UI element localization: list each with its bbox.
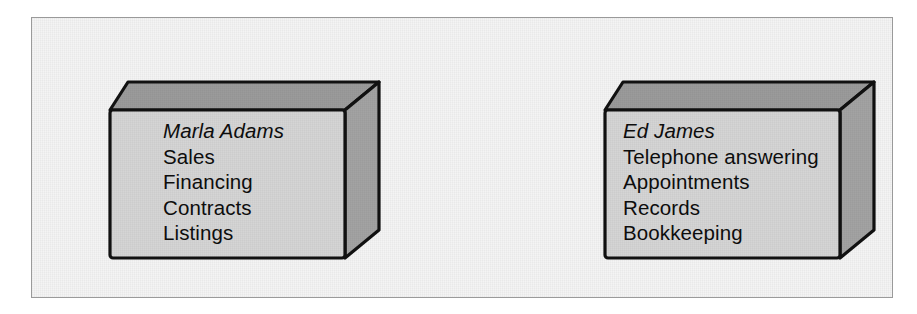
isometric-box-ed-james — [574, 63, 894, 278]
box-top-face — [605, 82, 874, 110]
box-side-face — [345, 82, 379, 258]
box-top-face — [110, 82, 379, 110]
box-front-face — [605, 110, 840, 258]
box-side-face — [840, 82, 874, 258]
figure-frame: Marla Adams Sales Financing Contracts Li… — [31, 17, 893, 298]
isometric-box-marla-adams — [79, 63, 399, 278]
box-front-face — [110, 110, 345, 258]
